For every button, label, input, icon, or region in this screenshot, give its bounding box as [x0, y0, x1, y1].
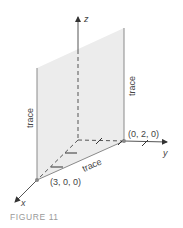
y-axis-label: y: [162, 148, 168, 158]
point-x-intercept: [35, 178, 39, 182]
trace-label-left: trace: [25, 108, 35, 128]
figure-caption: FIGURE 11: [10, 212, 59, 222]
trace-label-right: trace: [127, 76, 137, 96]
point-y-intercept: [122, 139, 126, 143]
x-intercept-label: (3, 0, 0): [50, 177, 81, 187]
figure-diagram: z y x (0, 2, 0) (3, 0, 0) trace trace tr…: [0, 0, 183, 228]
vertical-plane: [37, 28, 124, 180]
z-axis-label: z: [83, 14, 89, 24]
y-tick-3: [142, 140, 148, 146]
x-axis-label: x: [20, 198, 26, 208]
x-axis: [15, 180, 37, 202]
y-intercept-label: (0, 2, 0): [128, 129, 159, 139]
